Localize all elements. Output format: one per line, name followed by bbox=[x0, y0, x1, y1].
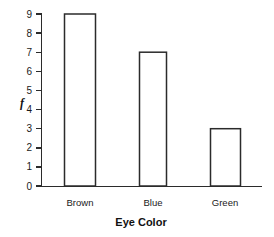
y-tick-label: 3 bbox=[26, 123, 32, 134]
chart-canvas: 9 8 7 6 5 4 3 2 1 0 f bbox=[0, 0, 274, 237]
bar-green[interactable] bbox=[211, 129, 241, 186]
y-tick-label: 6 bbox=[26, 66, 32, 77]
y-tick-marks bbox=[36, 14, 42, 186]
category-label-green: Green bbox=[212, 197, 238, 208]
y-tick-label: 8 bbox=[26, 28, 32, 39]
y-tick-label: 9 bbox=[26, 9, 32, 20]
bar-blue[interactable] bbox=[140, 52, 167, 186]
y-tick-label: 1 bbox=[26, 161, 32, 172]
y-tick-label: 5 bbox=[26, 85, 32, 96]
y-tick-label: 0 bbox=[26, 181, 32, 192]
x-tick-labels: Brown Blue Green bbox=[67, 197, 239, 208]
x-axis-title: Eye Color bbox=[115, 216, 167, 228]
y-tick-label: 7 bbox=[26, 47, 32, 58]
category-label-blue: Blue bbox=[143, 197, 162, 208]
bar-brown[interactable] bbox=[65, 14, 96, 186]
y-tick-label: 4 bbox=[26, 104, 32, 115]
bars-group bbox=[65, 14, 241, 186]
bar-chart: 9 8 7 6 5 4 3 2 1 0 f bbox=[0, 0, 274, 237]
category-label-brown: Brown bbox=[67, 197, 94, 208]
y-tick-labels: 9 8 7 6 5 4 3 2 1 0 bbox=[26, 9, 32, 192]
y-axis-title: f bbox=[20, 96, 25, 110]
y-tick-label: 2 bbox=[26, 142, 32, 153]
